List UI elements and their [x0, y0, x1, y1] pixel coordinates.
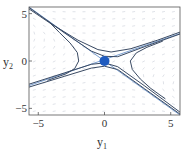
field-arrow [132, 26, 135, 27]
field-arrow [162, 19, 165, 20]
field-arrow [92, 75, 95, 76]
field-arrow [152, 19, 155, 20]
field-arrow [162, 61, 165, 62]
field-arrow [33, 111, 36, 112]
field-arrow [33, 68, 36, 69]
field-arrow [33, 104, 36, 105]
field-arrow [63, 111, 66, 112]
field-arrow [43, 32, 45, 34]
field-arrow [33, 97, 36, 98]
field-arrow [33, 18, 36, 19]
field-arrow [152, 68, 154, 70]
field-arrow [53, 46, 54, 49]
field-arrow [172, 40, 175, 41]
field-arrow [142, 61, 145, 62]
field-arrow [43, 104, 46, 105]
field-arrow [43, 97, 46, 98]
field-arrow [172, 26, 175, 27]
field-arrow [53, 53, 55, 55]
field-arrow [132, 33, 135, 34]
field-arrow [63, 61, 66, 62]
field-arrow [132, 11, 135, 12]
field-arrow [53, 68, 56, 69]
x-tick-label: 0 [102, 117, 108, 129]
field-arrow [153, 82, 155, 85]
equilibrium-point [100, 56, 110, 66]
field-arrow [63, 90, 66, 91]
field-arrow [83, 68, 86, 69]
field-arrow [43, 11, 46, 12]
field-arrow [152, 26, 155, 27]
field-arrow [152, 47, 155, 48]
field-arrow [112, 54, 115, 55]
field-arrow [172, 96, 174, 98]
field-arrow [162, 54, 165, 55]
field-arrow [43, 111, 46, 112]
field-arrow [53, 111, 56, 112]
field-arrow [142, 19, 145, 20]
field-arrow [133, 67, 135, 70]
field-arrow [162, 47, 165, 48]
field-arrow [122, 40, 125, 41]
field-arrow [172, 47, 175, 48]
field-arrow [163, 74, 165, 76]
field-arrow [173, 81, 174, 84]
x-tick-label: 5 [168, 117, 174, 129]
field-arrow [53, 32, 56, 34]
field-arrow [43, 25, 46, 26]
field-arrow [172, 18, 175, 19]
field-arrow [82, 82, 85, 83]
field-arrow [122, 33, 125, 34]
field-arrow [43, 75, 46, 76]
field-arrow [122, 47, 125, 48]
field-arrow [152, 54, 155, 55]
field-arrow [123, 67, 124, 70]
trajectory-left [48, 20, 79, 80]
field-arrow [82, 90, 85, 91]
field-arrow [162, 33, 165, 34]
trajectory-lower-2 [29, 63, 180, 112]
y-axis-label: y2 [3, 55, 13, 71]
field-arrow [73, 61, 76, 62]
field-arrow [162, 11, 165, 12]
field-arrow [73, 90, 76, 91]
field-arrow [93, 61, 96, 62]
field-arrow [142, 40, 145, 41]
trajectory-lower [29, 66, 180, 114]
field-arrow [172, 54, 175, 55]
field-arrow [152, 40, 155, 41]
phase-portrait-chart: −505−505 y2 y1 [0, 0, 185, 154]
field-arrow [53, 104, 56, 105]
field-arrow [53, 90, 56, 91]
field-arrow [132, 61, 135, 62]
field-arrow [152, 11, 155, 12]
field-arrow [43, 61, 46, 62]
field-arrow [172, 75, 174, 77]
field-arrow [172, 104, 175, 105]
field-arrow [43, 54, 45, 56]
field-arrow [73, 104, 76, 105]
y-tick-label: 5 [22, 8, 28, 20]
field-arrow [33, 54, 36, 56]
field-arrow [173, 89, 174, 92]
field-arrow [172, 61, 175, 62]
y-tick-label: 0 [22, 55, 28, 67]
field-arrow [53, 97, 56, 98]
field-arrow [33, 25, 35, 27]
field-arrow [73, 75, 76, 76]
field-arrow [162, 89, 164, 91]
field-arrow [132, 40, 135, 41]
field-arrow [63, 26, 66, 27]
field-arrow [122, 61, 125, 62]
field-arrow [63, 97, 66, 98]
field-arrow [54, 39, 55, 42]
field-arrow [53, 19, 56, 20]
field-arrow [43, 68, 46, 69]
field-arrow [33, 89, 36, 90]
field-arrow [53, 61, 56, 62]
field-arrow [132, 19, 135, 20]
field-arrow [112, 47, 115, 48]
field-arrow [73, 53, 75, 55]
field-arrow [43, 46, 45, 48]
field-arrow [43, 90, 46, 91]
